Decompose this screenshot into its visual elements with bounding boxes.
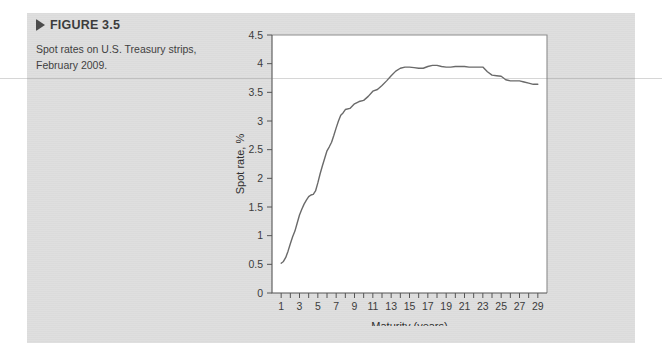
x-tick-label: 17 <box>422 300 434 312</box>
y-tick-label: 4.5 <box>248 29 263 41</box>
y-tick-label: 0.5 <box>248 258 263 270</box>
y-axis-tick-labels: 00.511.522.533.544.5 <box>248 29 263 299</box>
x-axis-title: Maturity (years) <box>371 320 447 326</box>
plot-background-rect <box>272 35 547 293</box>
x-tick-label: 9 <box>352 300 358 312</box>
plot-background <box>272 35 547 293</box>
x-tick-label: 21 <box>459 300 471 312</box>
x-tick-label: 13 <box>385 300 397 312</box>
y-tick-label: 2 <box>257 172 263 184</box>
y-tick-label: 1 <box>257 229 263 241</box>
y-tick-label: 0 <box>257 287 263 299</box>
x-axis-tick-labels: 1357911131517192123252729 <box>278 300 544 312</box>
y-tick-label: 1.5 <box>248 201 263 213</box>
x-tick-label: 27 <box>514 300 526 312</box>
x-tick-label: 15 <box>404 300 416 312</box>
x-tick-label: 23 <box>477 300 489 312</box>
figure-label: FIGURE 3.5 <box>50 18 120 32</box>
x-tick-label: 19 <box>440 300 452 312</box>
y-tick-label: 2.5 <box>248 143 263 155</box>
figure-page: FIGURE 3.5 Spot rates on U.S. Treasury s… <box>0 0 662 360</box>
y-axis-ticks <box>267 35 272 293</box>
x-axis-ticks <box>281 293 538 298</box>
figure-caption-text: Spot rates on U.S. Treasury strips, Febr… <box>36 41 211 73</box>
y-tick-label: 4 <box>257 57 263 69</box>
figure-heading: FIGURE 3.5 <box>36 18 211 32</box>
triangle-right-icon <box>36 19 45 31</box>
spot-rate-line-chart: 00.511.522.533.544.5 1357911131517192123… <box>232 16 562 326</box>
x-tick-label: 1 <box>278 300 284 312</box>
x-tick-label: 5 <box>315 300 321 312</box>
y-axis-title: Spot rate, % <box>234 134 246 195</box>
y-tick-label: 3.5 <box>248 86 263 98</box>
x-tick-label: 25 <box>495 300 507 312</box>
x-tick-label: 7 <box>333 300 339 312</box>
x-tick-label: 29 <box>532 300 544 312</box>
chart-area: 00.511.522.533.544.5 1357911131517192123… <box>232 16 562 326</box>
figure-caption-block: FIGURE 3.5 Spot rates on U.S. Treasury s… <box>36 18 211 73</box>
y-tick-label: 3 <box>257 115 263 127</box>
x-tick-label: 3 <box>297 300 303 312</box>
x-tick-label: 11 <box>367 300 378 312</box>
